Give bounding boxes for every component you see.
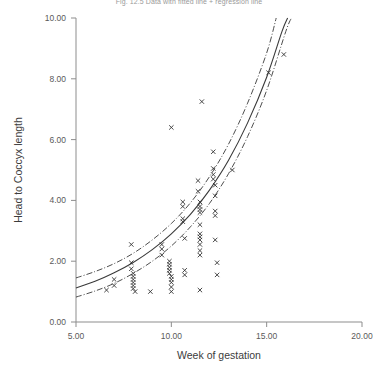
data-point: [211, 150, 215, 154]
x-axis: 5.0010.0015.0020.00: [68, 322, 373, 341]
data-point: [160, 242, 164, 246]
x-tick-label: 15.00: [256, 331, 278, 341]
y-tick-label: 8.00: [49, 74, 66, 84]
data-point: [129, 242, 133, 246]
y-tick-label: 6.00: [49, 135, 66, 145]
scatter-plot: 0.002.004.006.008.0010.00 5.0010.0015.00…: [0, 0, 378, 373]
data-point: [196, 178, 200, 182]
data-point: [213, 183, 217, 187]
data-point: [213, 238, 217, 242]
y-tick-label: 4.00: [49, 195, 66, 205]
data-point: [213, 213, 217, 217]
data-point: [129, 267, 133, 271]
data-point: [181, 204, 185, 208]
data-point: [112, 283, 116, 287]
data-point: [198, 248, 202, 252]
data-point: [182, 273, 186, 277]
y-axis-ticks: 0.002.004.006.008.0010.00: [45, 13, 76, 327]
data-point: [215, 273, 219, 277]
data-point: [211, 172, 215, 176]
data-point: [198, 242, 202, 246]
upper-confidence-band-path: [76, 18, 276, 278]
data-point: [169, 285, 173, 289]
y-axis-title: Head to Coccyx length: [12, 117, 24, 223]
y-tick-label: 0.00: [49, 317, 66, 327]
x-axis-title: Week of gestation: [177, 349, 261, 361]
data-point: [160, 247, 164, 251]
data-point: [182, 268, 186, 272]
data-point: [169, 280, 173, 284]
x-tick-label: 5.00: [68, 331, 85, 341]
data-point: [282, 52, 286, 56]
data-point: [182, 236, 186, 240]
upper-confidence-band: [76, 18, 276, 278]
lower-confidence-band-path: [76, 18, 291, 297]
fitted-regression-line-path: [76, 18, 288, 288]
y-tick-label: 10.00: [45, 13, 67, 23]
data-point: [211, 177, 215, 181]
data-point: [198, 288, 202, 292]
data-point: [198, 210, 202, 214]
data-point: [198, 238, 202, 242]
data-point: [198, 223, 202, 227]
data-point: [112, 277, 116, 281]
data-point: [181, 200, 185, 204]
data-point: [169, 289, 173, 293]
data-point: [148, 289, 152, 293]
fitted-regression-line: [76, 18, 288, 288]
data-point: [215, 261, 219, 265]
data-point: [200, 99, 204, 103]
x-tick-label: 20.00: [351, 331, 373, 341]
y-axis: 0.002.004.006.008.0010.00: [45, 13, 76, 327]
chart-figure: Fig. 12.5 Data with fitted line + regres…: [0, 0, 378, 373]
lower-confidence-band: [76, 18, 291, 297]
data-point: [104, 288, 108, 292]
x-tick-label: 10.00: [161, 331, 183, 341]
data-point: [198, 253, 202, 257]
y-tick-label: 2.00: [49, 256, 66, 266]
data-point: [213, 209, 217, 213]
data-points: [104, 52, 286, 294]
x-axis-ticks: 5.0010.0015.0020.00: [68, 322, 373, 341]
data-point: [169, 125, 173, 129]
data-point: [213, 194, 217, 198]
chart-title: Fig. 12.5 Data with fitted line + regres…: [0, 0, 378, 7]
